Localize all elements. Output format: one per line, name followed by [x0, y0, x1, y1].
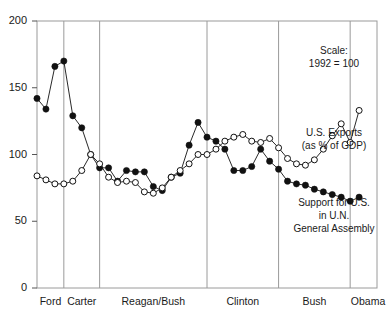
y-axis-label-200: 200	[0, 14, 27, 26]
data-point	[132, 180, 138, 186]
data-point	[79, 125, 85, 131]
data-point	[123, 178, 129, 184]
data-point	[150, 183, 156, 189]
data-point	[195, 152, 201, 158]
data-point	[258, 146, 264, 152]
data-point	[204, 152, 210, 158]
data-point	[240, 167, 246, 173]
data-point	[61, 181, 67, 187]
scale-annotation-line1: Scale:	[286, 44, 382, 57]
un-support-series-label-line1: Support for U.S.	[284, 196, 384, 209]
un-support-series-label: Support for U.S. in U.N. General Assembl…	[284, 196, 384, 235]
y-axis-label-0: 0	[0, 281, 27, 293]
data-point	[293, 181, 299, 187]
data-point	[195, 119, 201, 125]
data-point	[311, 186, 317, 192]
data-point	[231, 134, 237, 140]
data-point	[34, 173, 40, 179]
exports-series-label-line2: (as % of GDP)	[286, 139, 382, 152]
data-point	[356, 107, 362, 113]
data-point	[284, 178, 290, 184]
exports-series-label-line1: U.S. Exports	[286, 126, 382, 139]
data-point	[267, 158, 273, 164]
data-point	[186, 142, 192, 148]
x-axis-label-obama: Obama	[313, 295, 386, 307]
exports-series-label: U.S. Exports (as % of GDP)	[286, 126, 382, 152]
data-point	[285, 156, 291, 162]
data-point	[293, 161, 299, 167]
data-point	[231, 167, 237, 173]
data-point	[320, 189, 326, 195]
data-point	[132, 169, 138, 175]
y-axis-label-150: 150	[0, 81, 27, 93]
data-point	[168, 174, 174, 180]
un-support-series-label-line3: General Assembly	[284, 222, 384, 235]
data-point	[213, 146, 219, 152]
data-point	[52, 63, 58, 69]
data-point	[275, 166, 281, 172]
data-point	[43, 177, 49, 183]
data-point	[141, 169, 147, 175]
data-point	[249, 138, 255, 144]
data-point	[79, 168, 85, 174]
data-point	[106, 174, 112, 180]
data-point	[97, 161, 103, 167]
y-axis-label-50: 50	[0, 214, 27, 226]
data-point	[177, 168, 183, 174]
y-axis-label-100: 100	[0, 148, 27, 160]
data-point	[61, 58, 67, 64]
un-support-series-label-line2: in U.N.	[284, 209, 384, 222]
data-point	[70, 178, 76, 184]
data-point	[204, 134, 210, 140]
data-point	[159, 185, 165, 191]
data-point	[311, 157, 317, 163]
data-point	[258, 139, 264, 145]
data-point	[222, 138, 228, 144]
data-point	[267, 135, 273, 141]
scale-annotation-line2: 1992 = 100	[286, 57, 382, 70]
data-point	[302, 182, 308, 188]
data-point	[186, 161, 192, 167]
data-point	[240, 131, 246, 137]
data-point	[115, 180, 121, 186]
data-point	[43, 106, 49, 112]
scale-annotation: Scale: 1992 = 100	[286, 44, 382, 70]
data-point	[123, 167, 129, 173]
data-point	[302, 162, 308, 168]
data-point	[222, 146, 228, 152]
data-point	[88, 152, 94, 158]
data-point	[105, 165, 111, 171]
data-point	[141, 189, 147, 195]
data-point	[34, 95, 40, 101]
data-point	[70, 113, 76, 119]
data-point	[213, 138, 219, 144]
data-point	[52, 181, 58, 187]
data-point	[276, 145, 282, 151]
data-point	[249, 163, 255, 169]
chart-figure: 200150100500 FordCarterReagan/BushClinto…	[0, 0, 386, 319]
data-point	[150, 190, 156, 196]
